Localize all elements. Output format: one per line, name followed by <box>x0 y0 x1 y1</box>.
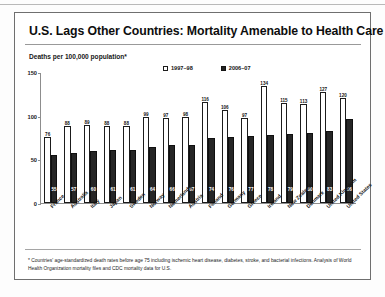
bar-group: 8857 <box>61 73 81 203</box>
legend-label-2006-07: 2006–07 <box>229 65 251 71</box>
bar: 64 <box>149 147 155 203</box>
legend-swatch-icon-dark <box>221 66 226 71</box>
y-tick-label: 50 <box>20 157 37 163</box>
bar-value-label: 88 <box>104 121 109 126</box>
bar: 78 <box>267 135 273 203</box>
bar-value-label: 66 <box>170 187 175 192</box>
bar-group: 7655 <box>41 73 61 203</box>
y-tick-label: 0 <box>20 201 37 207</box>
bar-group: 9777 <box>238 73 258 203</box>
bar-value-label: 64 <box>150 187 155 192</box>
footnote-divider <box>25 249 361 250</box>
bar-value-label: 97 <box>163 113 168 118</box>
bar: 66 <box>169 145 175 203</box>
legend-label-1997-98: 1997–98 <box>171 65 193 71</box>
title-divider <box>25 44 361 45</box>
bar-value-label: 60 <box>91 187 96 192</box>
bar: 60 <box>90 151 96 203</box>
bar: 83 <box>326 131 332 203</box>
bar-value-label: 55 <box>51 187 56 192</box>
bar-group: 13478 <box>258 73 278 203</box>
y-tick-label: 100 <box>20 114 37 120</box>
bar: 57 <box>71 153 77 203</box>
scan-top-rule <box>0 4 385 5</box>
bar-group: 11579 <box>277 73 297 203</box>
bar-value-label: 57 <box>71 187 76 192</box>
bar: 61 <box>110 150 116 203</box>
bar-value-label: 78 <box>268 187 273 192</box>
bar-group: 8960 <box>80 73 100 203</box>
bar-value-label: 76 <box>45 132 50 137</box>
bar: 80 <box>307 133 313 203</box>
bar: 79 <box>287 134 293 203</box>
legend-item-2006-07: 2006–07 <box>221 65 251 71</box>
bar-group: 10676 <box>218 73 238 203</box>
scanned-page: U.S. Lags Other Countries: Mortality Ame… <box>0 0 385 297</box>
bar-group: 9766 <box>159 73 179 203</box>
bar-value-label: 76 <box>229 187 234 192</box>
bar-value-label: 88 <box>65 121 70 126</box>
bar-value-label: 77 <box>248 187 253 192</box>
y-axis-caption: Deaths per 100,000 population* <box>29 53 127 60</box>
bar-value-label: 99 <box>144 112 149 117</box>
bar: 74 <box>208 138 214 203</box>
bar-group: 9964 <box>139 73 159 203</box>
y-tick-label: 150 <box>20 70 37 76</box>
legend-swatch-icon-light <box>163 66 168 71</box>
bar-group: 8861 <box>120 73 140 203</box>
bar-value-label: 115 <box>280 98 287 103</box>
bar-group: 12783 <box>317 73 337 203</box>
page-title: U.S. Lags Other Countries: Mortality Ame… <box>29 24 359 38</box>
bar-value-label: 98 <box>183 112 188 117</box>
bar-value-label: 61 <box>111 187 116 192</box>
bar-value-label: 83 <box>327 187 332 192</box>
footnote-text: * Countries' age-standardized death rate… <box>28 257 358 272</box>
bar-value-label: 89 <box>84 120 89 125</box>
bar-value-label: 127 <box>319 87 327 92</box>
bar-group: 11674 <box>199 73 219 203</box>
x-axis-labels: FranceAustraliaItalyJapanSwedenNorwayNet… <box>41 205 356 251</box>
bar-value-label: 134 <box>260 81 268 86</box>
bar-value-label: 116 <box>201 97 208 102</box>
bar: 67 <box>189 145 195 204</box>
bar-value-label: 88 <box>124 121 129 126</box>
bar-value-label: 120 <box>339 93 347 98</box>
chart-legend: 1997–98 2006–07 <box>163 65 251 71</box>
bar: 76 <box>228 137 234 203</box>
bar: 61 <box>130 150 136 203</box>
bar-value-label: 97 <box>242 113 247 118</box>
bar-group: 8861 <box>100 73 120 203</box>
legend-item-1997-98: 1997–98 <box>163 65 193 71</box>
bar: 77 <box>248 136 254 203</box>
bar-value-label: 79 <box>288 187 293 192</box>
slide-frame: U.S. Lags Other Countries: Mortality Ame… <box>14 12 371 280</box>
bar-value-label: 61 <box>130 187 135 192</box>
bar-value-label: 106 <box>221 105 229 110</box>
bar-value-label: 113 <box>300 99 307 104</box>
bar-value-label: 74 <box>209 187 214 192</box>
